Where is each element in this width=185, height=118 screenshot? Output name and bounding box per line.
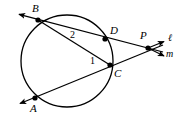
line-label-m: m xyxy=(166,49,173,59)
geometry-figure: B D C A P 1 2 ℓ m xyxy=(0,0,185,118)
point-label-A: A xyxy=(30,103,37,114)
point-label-C: C xyxy=(114,68,121,79)
point-marker-C xyxy=(107,62,112,67)
point-label-P: P xyxy=(140,30,147,41)
point-marker-B xyxy=(35,17,40,22)
line-label-l: ℓ xyxy=(168,33,172,43)
point-label-D: D xyxy=(110,25,118,36)
point-marker-A xyxy=(32,95,37,100)
chord-b-c xyxy=(38,20,110,65)
angle-label-1: 1 xyxy=(90,56,95,66)
point-label-B: B xyxy=(32,3,39,14)
point-marker-D xyxy=(102,36,107,41)
circle-shape xyxy=(21,15,113,107)
point-marker-P xyxy=(145,45,150,50)
angle-label-2: 2 xyxy=(70,30,75,40)
